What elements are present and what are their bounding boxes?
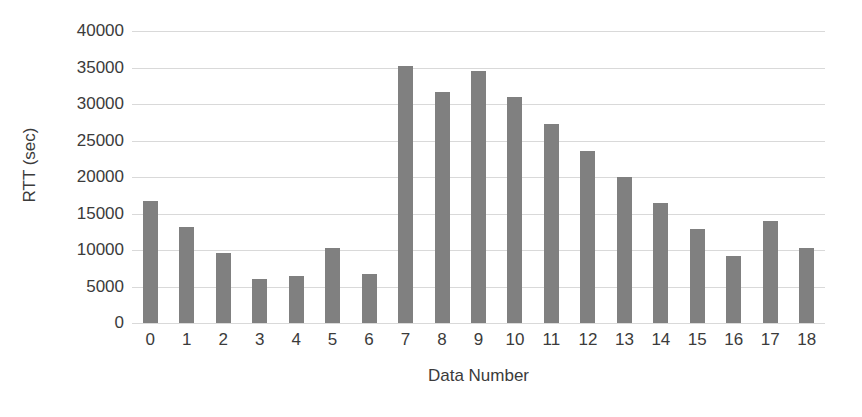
bar [617, 177, 632, 323]
bar [726, 256, 741, 323]
y-axis-tick-label: 0 [48, 313, 124, 333]
y-axis-title: RTT (sec) [10, 0, 50, 330]
bar [763, 221, 778, 323]
y-axis-tick-label: 25000 [48, 131, 124, 151]
x-axis-tick-label: 16 [716, 330, 752, 350]
y-axis-title-label: RTT (sec) [20, 128, 40, 203]
x-axis-tick-label: 0 [132, 330, 168, 350]
bar [252, 279, 267, 323]
x-axis-tick-label: 8 [424, 330, 460, 350]
bar [690, 229, 705, 323]
x-axis-tick-label: 13 [606, 330, 642, 350]
y-axis-tick-labels: 0500010000150002000025000300003500040000 [48, 0, 124, 340]
x-axis-tick-label: 17 [752, 330, 788, 350]
x-axis-tick-label: 6 [351, 330, 387, 350]
bar [653, 203, 668, 323]
y-axis-tick-label: 40000 [48, 21, 124, 41]
x-axis-tick-label: 1 [169, 330, 205, 350]
bar [179, 227, 194, 323]
x-axis-tick-label: 14 [643, 330, 679, 350]
bar [289, 276, 304, 323]
x-axis-tick-label: 12 [570, 330, 606, 350]
bar [435, 92, 450, 323]
y-axis-tick-label: 10000 [48, 240, 124, 260]
gridline [132, 323, 825, 324]
y-axis-tick-label: 20000 [48, 167, 124, 187]
x-axis-tick-label: 11 [533, 330, 569, 350]
bar [544, 124, 559, 323]
x-axis-tick-label: 4 [278, 330, 314, 350]
y-axis-tick-label: 30000 [48, 94, 124, 114]
x-axis-tick-label: 5 [315, 330, 351, 350]
bar [362, 274, 377, 323]
bar [325, 248, 340, 323]
x-axis-title-label: Data Number [428, 366, 529, 385]
x-axis-tick-label: 15 [679, 330, 715, 350]
bar [471, 71, 486, 323]
x-axis-tick-labels: 0123456789101112131415161718 [132, 330, 825, 356]
x-axis-tick-label: 7 [388, 330, 424, 350]
x-axis-title: Data Number [132, 366, 825, 386]
bar [216, 253, 231, 323]
bar [580, 151, 595, 323]
x-axis-tick-label: 18 [789, 330, 825, 350]
bar [799, 248, 814, 323]
bar [143, 201, 158, 323]
x-axis-tick-label: 3 [242, 330, 278, 350]
bars-group [132, 31, 825, 323]
y-axis-tick-label: 35000 [48, 58, 124, 78]
plot-area [132, 31, 825, 323]
bar-chart: RTT (sec) 050001000015000200002500030000… [0, 0, 862, 417]
x-axis-tick-label: 2 [205, 330, 241, 350]
bar [507, 97, 522, 323]
bar [398, 66, 413, 323]
x-axis-tick-label: 9 [461, 330, 497, 350]
y-axis-tick-label: 5000 [48, 277, 124, 297]
x-axis-tick-label: 10 [497, 330, 533, 350]
y-axis-tick-label: 15000 [48, 204, 124, 224]
